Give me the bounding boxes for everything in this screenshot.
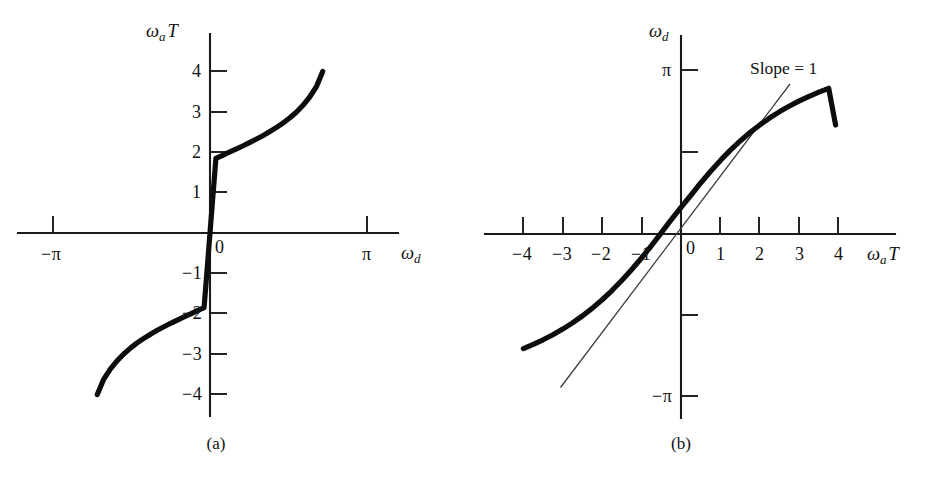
figure-container: ωaT ωd −π π 0 4 3 2 1 −1 −2 −3 −4 (a) — [0, 0, 927, 482]
slope-annotation: Slope = 1 — [750, 58, 817, 79]
panel-b-caption: (b) — [651, 434, 711, 454]
panel-b-xtick-label-neg-4: −4 — [512, 245, 532, 263]
panel-a-x-axis-label-omega: ω — [401, 243, 414, 263]
panel-a-ytick-label-2: 2 — [192, 143, 201, 161]
panel-a-ytick-label-neg-2: −2 — [182, 304, 202, 322]
panel-b-y-axis-label: ωd — [649, 22, 669, 43]
panel-b-y-axis-label-subscript: d — [662, 29, 669, 44]
panel-a-x-axis-label: ωd — [401, 244, 421, 265]
panel-b-x-axis-label-omega: ω — [867, 244, 880, 264]
panel-b-xtick-label-neg-1: −1 — [631, 245, 651, 263]
panel-b-xtick-label-3: 3 — [795, 245, 804, 263]
panel-b-xtick-label-1: 1 — [716, 245, 725, 263]
panel-a: ωaT ωd −π π 0 4 3 2 1 −1 −2 −3 −4 (a) — [0, 0, 463, 482]
panel-a-y-axis-label-T: T — [166, 21, 178, 41]
panel-a-y-axis-label-subscript: a — [159, 29, 166, 44]
panel-a-ytick-label-1: 1 — [192, 183, 201, 201]
panel-a-ytick-label-3: 3 — [192, 103, 201, 121]
panel-a-ytick-label-4: 4 — [192, 62, 201, 80]
panel-a-caption: (a) — [186, 434, 246, 454]
panel-b-xtick-label-2: 2 — [755, 245, 764, 263]
panel-a-ytick-label-neg-3: −3 — [182, 345, 202, 363]
panel-a-x-axis-label-subscript: d — [414, 251, 421, 266]
panel-a-y-axis-label: ωaT — [146, 22, 178, 43]
panel-a-ytick-label-neg-1: −1 — [182, 264, 202, 282]
panel-a-xtick-label-pi: π — [362, 245, 371, 263]
panel-b-xtick-label-neg-2: −2 — [591, 245, 611, 263]
panel-b-plot — [463, 0, 927, 482]
panel-b-x-axis-label-subscript: a — [880, 252, 887, 267]
panel-b-ytick-label-neg-pi: −π — [652, 387, 672, 405]
panel-a-origin-label: 0 — [215, 238, 224, 256]
panel-a-y-axis-label-omega: ω — [146, 21, 159, 41]
panel-b-xtick-label-4: 4 — [834, 245, 843, 263]
panel-b: ωd ωaT −4 −3 −2 −1 1 2 3 4 0 π −π Slope … — [463, 0, 926, 482]
panel-a-xtick-label-neg-pi: −π — [41, 245, 61, 263]
panel-b-x-axis-label-T: T — [887, 244, 899, 264]
panel-b-x-axis-label: ωaT — [867, 245, 899, 266]
panel-b-y-axis-label-omega: ω — [649, 21, 662, 41]
panel-b-curve — [523, 88, 835, 348]
panel-b-ytick-label-pi: π — [662, 61, 671, 79]
panel-b-origin-label: 0 — [686, 239, 695, 257]
panel-a-ytick-label-neg-4: −4 — [182, 385, 202, 403]
panel-b-xtick-label-neg-3: −3 — [552, 245, 572, 263]
panel-a-plot — [0, 0, 463, 482]
